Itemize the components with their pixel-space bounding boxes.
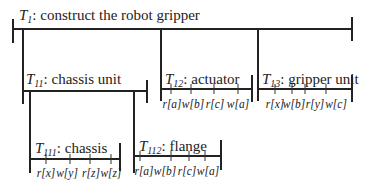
operation-label: r[a] bbox=[134, 166, 153, 178]
operation-label: r[y] bbox=[306, 99, 325, 111]
operation-label: w[a] bbox=[197, 166, 219, 178]
node-label-t111: T111: chassis bbox=[35, 141, 107, 158]
t13-operations: r[x] w[b] r[y] w[c] bbox=[0, 99, 365, 113]
t112-operations: r[a] w[b] r[c] w[a] bbox=[0, 166, 365, 180]
operation-label: r[c] bbox=[178, 166, 197, 178]
node-label-t13: T13: gripper unit bbox=[262, 72, 359, 89]
operation-label: w[b] bbox=[283, 99, 305, 111]
operation-label: w[b] bbox=[154, 166, 176, 178]
node-label-t11: T11: chassis unit bbox=[26, 72, 121, 89]
node-label-t112: T112: flange bbox=[139, 139, 207, 156]
operation-label: w[c] bbox=[325, 99, 347, 111]
node-label-t1: T1: construct the robot gripper bbox=[19, 8, 200, 25]
operation-label: r[x] bbox=[266, 99, 285, 111]
node-label-t12: T12: actuator bbox=[165, 72, 240, 89]
